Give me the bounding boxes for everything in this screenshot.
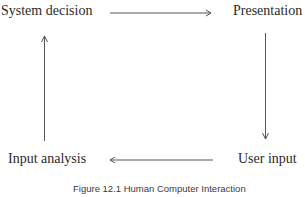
arrow-down-icon	[263, 33, 269, 139]
arrow-right-icon	[110, 10, 211, 16]
arrow-left-icon	[110, 157, 213, 163]
arrow-up-icon	[42, 36, 48, 141]
flow-arrows	[0, 0, 305, 197]
figure-caption: Figure 12.1 Human Computer Interaction	[73, 183, 246, 194]
